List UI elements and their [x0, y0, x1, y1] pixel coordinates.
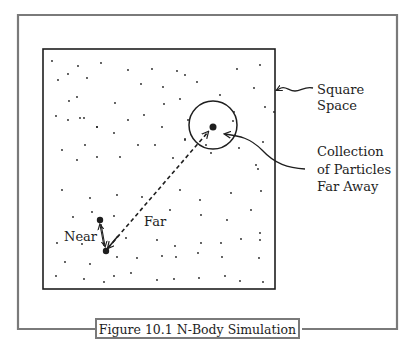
particle	[174, 245, 176, 247]
particle	[68, 100, 70, 102]
particle	[199, 199, 201, 201]
particle	[83, 278, 85, 280]
particle	[163, 103, 165, 105]
particle	[232, 120, 234, 122]
particle	[84, 144, 86, 146]
square-space-label-line1: Square	[317, 82, 364, 98]
particle	[239, 280, 241, 282]
particle	[221, 256, 223, 258]
particle	[143, 114, 145, 116]
particle	[127, 119, 129, 121]
particle	[103, 281, 105, 283]
particle	[79, 117, 81, 119]
particle	[113, 215, 115, 217]
particle	[258, 257, 260, 259]
particle	[179, 189, 181, 191]
particle	[83, 117, 85, 119]
collection-label-line1: Collection	[317, 143, 391, 161]
particle	[264, 106, 266, 108]
particle	[172, 157, 174, 159]
near-particle-a	[97, 217, 103, 223]
particle	[198, 277, 200, 279]
particle	[179, 98, 181, 100]
square-space-label-line2: Space	[317, 98, 364, 114]
particle	[76, 159, 78, 161]
square-space	[43, 49, 275, 289]
particle	[116, 194, 118, 196]
far-arrow-reverse-head	[108, 236, 118, 248]
particle	[197, 252, 199, 254]
collection-pointer	[225, 134, 305, 169]
particle	[173, 278, 175, 280]
particle	[260, 190, 262, 192]
particle	[210, 152, 212, 154]
square-space-pointer	[277, 88, 313, 91]
particle	[240, 238, 242, 240]
particle	[196, 81, 198, 83]
particle	[176, 70, 178, 72]
square-space-label: Square Space	[317, 82, 364, 114]
particle	[200, 214, 202, 216]
particle	[224, 275, 226, 277]
particle	[220, 242, 222, 244]
particle	[77, 65, 79, 67]
collection-label: Collection of Particles Far Away	[317, 143, 391, 196]
particle	[113, 275, 115, 277]
particle	[262, 141, 264, 143]
particle	[161, 255, 163, 257]
particle	[136, 257, 138, 259]
particle	[140, 83, 142, 85]
particle	[259, 239, 261, 241]
particle	[273, 111, 275, 113]
particle	[262, 281, 264, 283]
particle	[219, 94, 221, 96]
particle	[67, 73, 69, 75]
particle	[154, 144, 156, 146]
particle	[57, 79, 59, 81]
particle	[205, 144, 207, 146]
particle	[55, 115, 57, 117]
particle	[255, 164, 257, 166]
particle-field	[51, 60, 275, 283]
particle	[141, 196, 143, 198]
collection-label-line3: Far Away	[317, 178, 391, 196]
particle	[100, 62, 102, 64]
particle	[116, 256, 118, 258]
particle	[184, 74, 186, 76]
far-label: Far	[144, 214, 166, 230]
particle	[119, 156, 121, 158]
particle	[162, 86, 164, 88]
particle	[91, 211, 93, 213]
particle	[236, 68, 238, 70]
particle	[96, 126, 98, 128]
particle	[67, 119, 69, 121]
cluster-center-particle	[210, 124, 217, 131]
particle	[61, 189, 63, 191]
particle	[226, 219, 228, 221]
particle	[156, 239, 158, 241]
particle	[184, 139, 186, 141]
particle	[96, 156, 98, 158]
particle	[72, 216, 74, 218]
particle	[55, 275, 57, 277]
particle	[230, 192, 232, 194]
particle	[200, 242, 202, 244]
particle	[114, 102, 116, 104]
particle	[169, 209, 171, 211]
far-arrow	[108, 132, 208, 248]
particle	[86, 77, 88, 79]
near-particle-b	[103, 248, 109, 254]
particle	[259, 232, 261, 234]
particle	[113, 132, 115, 134]
particle	[151, 68, 153, 70]
particle	[61, 149, 63, 151]
particle	[89, 197, 91, 199]
particle	[161, 126, 163, 128]
particle	[250, 209, 252, 211]
particle	[130, 272, 132, 274]
particle	[127, 69, 129, 71]
particle	[259, 64, 261, 66]
figure-caption: Figure 10.1 N-Body Simulation	[97, 322, 298, 337]
particle	[238, 147, 240, 149]
particle	[76, 96, 78, 98]
